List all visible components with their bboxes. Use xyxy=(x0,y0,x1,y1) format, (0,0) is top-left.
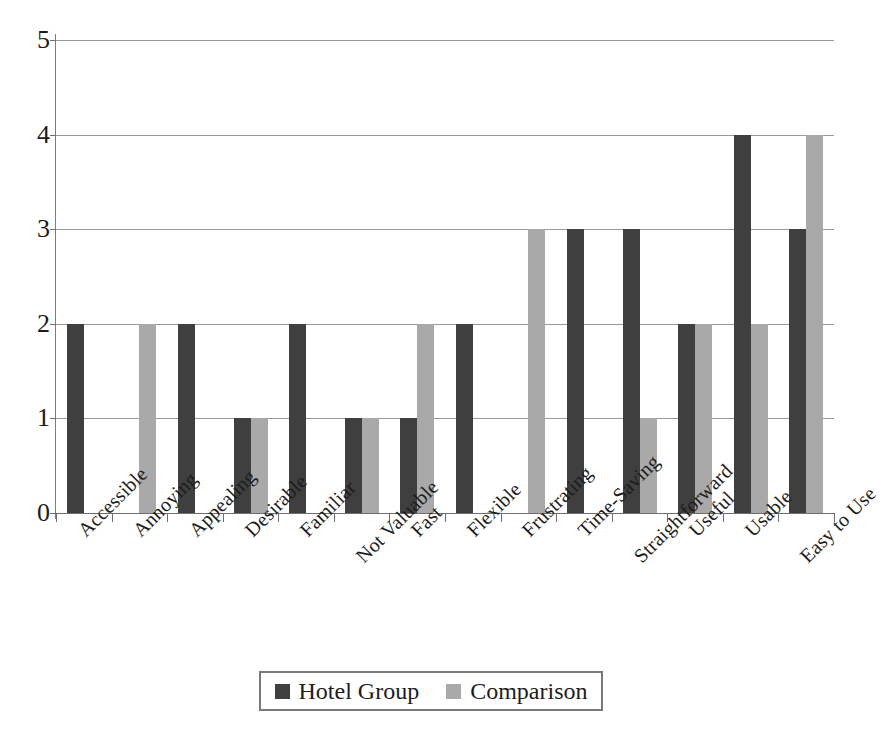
bar-usable-hotel-group xyxy=(734,135,751,513)
legend-swatch-icon xyxy=(446,684,461,699)
y-tick-label-1: 1 xyxy=(20,405,50,431)
legend-label: Comparison xyxy=(470,679,587,703)
chart-legend: Hotel GroupComparison xyxy=(259,671,603,711)
bar-flexible-hotel-group xyxy=(456,324,473,513)
bar-easy-to-use-comparison xyxy=(806,135,823,513)
legend-item-hotel-group[interactable]: Hotel Group xyxy=(275,679,420,703)
bar-usable-comparison xyxy=(751,324,768,513)
plot-area xyxy=(56,40,834,513)
y-tick-label-3: 3 xyxy=(20,216,50,242)
y-tick-label-5: 5 xyxy=(20,27,50,53)
legend-label: Hotel Group xyxy=(299,679,420,703)
bar-not-valuable-comparison xyxy=(362,418,379,513)
plot-wrapper: 012345 AccessibleAnnoyingAppealingDesira… xyxy=(0,0,862,560)
legend-item-comparison[interactable]: Comparison xyxy=(446,679,587,703)
bar-frustrating-comparison xyxy=(528,229,545,513)
x-axis-category-labels: AccessibleAnnoyingAppealingDesirableFami… xyxy=(0,522,862,672)
bar-accessible-hotel-group xyxy=(67,324,84,513)
y-tick-label-2: 2 xyxy=(20,311,50,337)
bars-layer xyxy=(56,40,834,513)
y-axis-tick-labels: 012345 xyxy=(20,0,50,560)
x-tick-mark-0 xyxy=(56,513,57,522)
bar-useful-hotel-group xyxy=(678,324,695,513)
legend-swatch-icon xyxy=(275,684,290,699)
y-tick-label-4: 4 xyxy=(20,122,50,148)
bar-easy-to-use-hotel-group xyxy=(789,229,806,513)
